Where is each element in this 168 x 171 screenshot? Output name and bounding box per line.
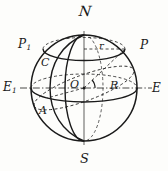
label-south-pole: S (80, 152, 89, 165)
label-pole-left-base: P (18, 37, 26, 51)
sphere-diagram: Ν S P P1 E E1 C A O R r (0, 0, 168, 171)
label-point-c: C (41, 57, 49, 68)
label-center-o: O (70, 79, 79, 90)
label-pole-right: P (140, 39, 148, 51)
label-point-a: A (39, 105, 47, 116)
label-radius-R: R (110, 80, 118, 91)
label-pole-left: P1 (18, 38, 31, 51)
label-radius-r: r (99, 41, 104, 51)
center-point-dot (83, 87, 86, 90)
latitude-angle-arc (92, 80, 95, 88)
label-equator-left-subscript: 1 (12, 86, 17, 95)
sphere-geometry-svg (0, 0, 168, 171)
label-equator-right: E (152, 82, 161, 94)
label-north-pole: Ν (78, 4, 92, 18)
label-pole-left-subscript: 1 (26, 43, 31, 52)
label-equator-left-base: E (3, 80, 12, 94)
label-equator-left: E1 (3, 81, 17, 94)
